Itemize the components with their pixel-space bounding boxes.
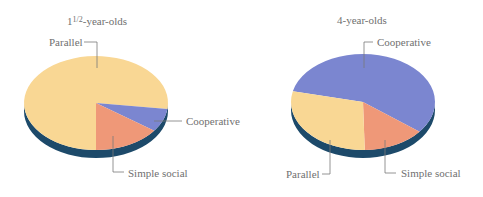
label-right-parallel: Parallel <box>286 168 320 180</box>
label-right-simple-social: Simple social <box>401 167 461 179</box>
label-right-cooperative: Cooperative <box>377 36 431 48</box>
chart-figure: 11/2-year-olds 4-year-olds Parallel Coop… <box>0 0 483 197</box>
title-left-suffix: -year-olds <box>83 15 127 27</box>
pie-4-year-olds <box>291 54 435 158</box>
chart-title-right: 4-year-olds <box>337 14 387 26</box>
title-left-fraction: 1/2 <box>73 15 83 24</box>
label-left-cooperative: Cooperative <box>186 115 240 127</box>
label-left-parallel: Parallel <box>49 36 83 48</box>
chart-title-left: 11/2-year-olds <box>67 14 127 27</box>
pie-1-5-year-olds <box>24 56 168 158</box>
label-left-simple-social: Simple social <box>128 167 188 179</box>
